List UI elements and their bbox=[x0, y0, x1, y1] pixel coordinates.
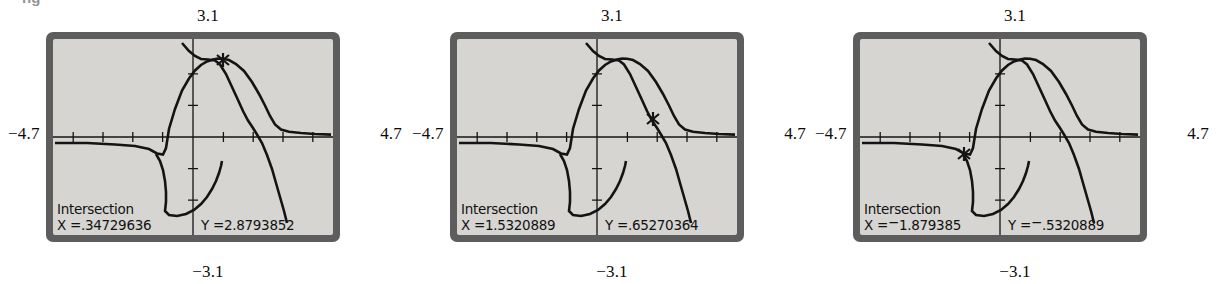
curve-lower-left-2 bbox=[560, 154, 626, 216]
window-xmin-label-2: −4.7 bbox=[412, 124, 444, 144]
window-ymax-label-2: 3.1 bbox=[601, 6, 623, 26]
window-xmax-label-2: 4.7 bbox=[784, 124, 806, 144]
curve-lower-left-3 bbox=[963, 154, 1029, 216]
calculator-lcd-2[interactable]: Intersection X =1.5320889 Y =.65270364 bbox=[457, 39, 737, 235]
calculator-panel-2: 3.1 −4.7 4.7 −3.1 bbox=[412, 0, 812, 284]
calculator-screen-bezel-2: Intersection X =1.5320889 Y =.65270364 bbox=[450, 32, 744, 242]
window-ymin-label-2: −3.1 bbox=[596, 262, 628, 282]
axes-group-3 bbox=[860, 39, 1140, 235]
curve-steep-1 bbox=[182, 43, 287, 223]
calculator-screen-bezel-3: Intersection X =−1.879385 Y =−.5320889 bbox=[853, 32, 1147, 242]
curve-steep-3 bbox=[989, 43, 1094, 223]
calculator-panel-1: 3.1 −4.7 4.7 −3.1 bbox=[8, 0, 408, 284]
window-xmin-label-3: −4.7 bbox=[815, 124, 847, 144]
axes-group-2 bbox=[457, 39, 737, 235]
calculator-lcd-3[interactable]: Intersection X =−1.879385 Y =−.5320889 bbox=[860, 39, 1140, 235]
axes-group-1 bbox=[53, 39, 333, 235]
window-ymax-label-1: 3.1 bbox=[197, 6, 219, 26]
window-xmax-label-1: 4.7 bbox=[380, 124, 402, 144]
window-xmin-label-1: −4.7 bbox=[8, 124, 40, 144]
window-xmax-label-3: 4.7 bbox=[1187, 124, 1209, 144]
graph-canvas-2 bbox=[457, 39, 737, 235]
calculator-screen-bezel-1: Intersection X =.34729636 Y =2.8793852 bbox=[46, 32, 340, 242]
window-ymin-label-1: −3.1 bbox=[192, 262, 224, 282]
graph-canvas-1 bbox=[53, 39, 333, 235]
calculator-panel-3: 3.1 −4.7 4.7 −3.1 bbox=[815, 0, 1215, 284]
graph-canvas-3 bbox=[860, 39, 1140, 235]
trace-cursor-2 bbox=[647, 112, 659, 126]
calculator-screens-figure: ng 3.1 −4.7 4.7 −3.1 bbox=[0, 0, 1219, 284]
window-ymax-label-3: 3.1 bbox=[1004, 6, 1026, 26]
window-ymin-label-3: −3.1 bbox=[999, 262, 1031, 282]
curve-steep-2 bbox=[586, 43, 691, 223]
curve-lower-left-1 bbox=[156, 154, 222, 216]
calculator-lcd-1[interactable]: Intersection X =.34729636 Y =2.8793852 bbox=[53, 39, 333, 235]
